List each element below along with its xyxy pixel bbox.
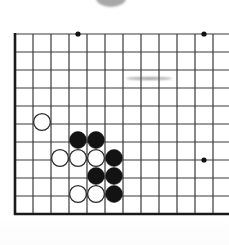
go-board-diagram xyxy=(0,0,229,245)
star-point xyxy=(75,31,80,36)
white-stone[interactable] xyxy=(70,186,87,203)
black-stone[interactable] xyxy=(106,150,123,167)
star-point xyxy=(201,157,206,162)
black-stone[interactable] xyxy=(88,168,105,185)
white-stone[interactable] xyxy=(70,150,87,167)
white-stone[interactable] xyxy=(34,114,51,131)
black-stone[interactable] xyxy=(88,132,105,149)
goban-canvas[interactable] xyxy=(0,0,229,245)
star-point xyxy=(201,31,206,36)
black-stone[interactable] xyxy=(106,168,123,185)
black-stone[interactable] xyxy=(70,132,87,149)
white-stone[interactable] xyxy=(52,150,69,167)
horizontal-smudge-artifact xyxy=(126,77,172,80)
white-stone[interactable] xyxy=(88,186,105,203)
white-stone[interactable] xyxy=(88,150,105,167)
black-stone[interactable] xyxy=(106,186,123,203)
